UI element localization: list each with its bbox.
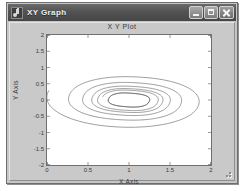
y-tick-label: 1 xyxy=(41,65,44,71)
y-tick-label: 0 xyxy=(41,97,44,103)
minimize-icon xyxy=(193,14,199,16)
x-tick-label: 0.5 xyxy=(84,167,92,173)
y-tick-label: -2 xyxy=(39,162,44,168)
x-tick-label: 1.5 xyxy=(166,167,174,173)
limit-cycle-curve xyxy=(108,93,150,107)
close-button[interactable] xyxy=(219,6,234,19)
x-tick-label: 1 xyxy=(127,167,130,173)
y-tick-label: 0.5 xyxy=(36,81,44,87)
y-tick-label: 2 xyxy=(41,32,44,38)
minimize-button[interactable] xyxy=(189,6,203,19)
xy-graph-icon xyxy=(11,7,23,19)
window-titlebar[interactable]: XY Graph xyxy=(8,4,236,21)
y-axis-label: Y Axis xyxy=(12,80,19,100)
y-tick-label: 1.5 xyxy=(36,48,44,54)
trajectory-plot xyxy=(47,35,211,165)
y-tick-label: -0.5 xyxy=(34,113,44,119)
y-tick-label: -1.5 xyxy=(34,146,44,152)
window-controls xyxy=(189,6,235,19)
plot-title: X Y Plot xyxy=(10,23,234,30)
maximize-button[interactable] xyxy=(204,6,218,19)
maximize-icon xyxy=(208,9,214,15)
plot-axes: 21.510.50-0.5-1-1.5-200.511.52 xyxy=(46,34,212,166)
x-axis-label: X Axis xyxy=(46,178,212,185)
y-tick-label: -1 xyxy=(39,130,44,136)
resize-grip[interactable] xyxy=(222,168,231,177)
trajectory-curve xyxy=(47,77,199,128)
xy-graph-screenshot: XY Graph X Y Plot 21.510.50-0.5-1-1.5-20… xyxy=(0,0,244,191)
x-tick-label: 2 xyxy=(209,167,212,173)
figure-panel: X Y Plot 21.510.50-0.5-1-1.5-200.511.52 … xyxy=(9,22,235,181)
x-tick-label: 0 xyxy=(45,167,48,173)
window-title: XY Graph xyxy=(27,8,189,17)
xy-graph-window: XY Graph X Y Plot 21.510.50-0.5-1-1.5-20… xyxy=(6,2,238,184)
